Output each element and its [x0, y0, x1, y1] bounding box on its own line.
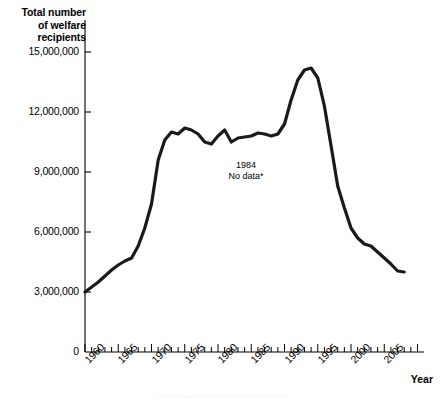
y-axis-tick-label: 9,000,000 — [6, 165, 79, 177]
no-data-annotation: 1984 No data* — [229, 160, 264, 181]
x-axis-title: Year — [411, 373, 433, 385]
chart-figure: Total number of welfare recipients 15,00… — [0, 0, 441, 407]
y-axis-tick-label: 15,000,000 — [6, 45, 79, 57]
page-footer-text: ········································… — [0, 393, 441, 407]
y-axis-tick-label: 12,000,000 — [6, 105, 79, 117]
annotation-text: No data* — [229, 171, 264, 182]
y-axis-tick-label: 3,000,000 — [6, 285, 79, 297]
annotation-year: 1984 — [229, 160, 264, 171]
y-axis-tick-label: 0 — [6, 345, 79, 357]
y-axis-tick-label: 6,000,000 — [6, 225, 79, 237]
